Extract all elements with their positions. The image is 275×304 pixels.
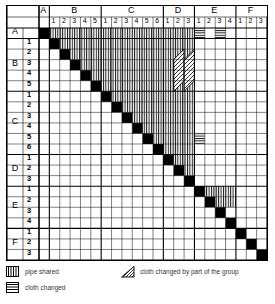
- col-sub-B2: 2: [59, 17, 69, 24]
- col-group-B: B: [66, 6, 82, 15]
- row-sub-E3: 3: [22, 207, 36, 215]
- col-sub-C5: 5: [142, 17, 152, 24]
- row-sub-C6: 6: [22, 143, 36, 151]
- col-sub-E2: 2: [204, 17, 214, 24]
- col-sub-C4: 4: [131, 17, 141, 24]
- row-sub-D3: 3: [22, 175, 36, 183]
- col-sub-B4: 4: [80, 17, 90, 24]
- col-sub-C2: 2: [111, 17, 121, 24]
- row-sub-C3: 3: [22, 112, 36, 120]
- row-sub-C5: 5: [22, 133, 36, 141]
- col-sub-B1: 1: [49, 17, 59, 24]
- legend-label-cloth-changed: cloth changed: [25, 284, 65, 292]
- vertical-hatch-swatch-icon: [6, 266, 19, 277]
- row-sub-F2: 2: [22, 238, 36, 246]
- row-sub-D2: 2: [22, 164, 36, 172]
- row-sub-C2: 2: [22, 101, 36, 109]
- col-sub-F1: 1: [235, 17, 245, 24]
- row-sub-C4: 4: [22, 122, 36, 130]
- col-sub-C6: 6: [152, 17, 162, 24]
- col-sub-C3: 3: [121, 17, 131, 24]
- col-sub-B3: 3: [69, 17, 79, 24]
- row-sub-B5: 5: [22, 80, 36, 88]
- row-sub-B1: 1: [22, 38, 36, 46]
- row-sub-B2: 2: [22, 48, 36, 56]
- row-sub-E4: 4: [22, 217, 36, 225]
- col-group-E: E: [206, 6, 222, 15]
- row-group-F: F: [8, 238, 22, 247]
- row-sub-B4: 4: [22, 69, 36, 77]
- legend-label-pipe-shared: pipe shared: [25, 268, 59, 276]
- col-sub-F3: 3: [256, 17, 266, 24]
- col-sub-E1: 1: [194, 17, 204, 24]
- matrix-figure: AB12345C123456D123E1234F123AB12345C12345…: [0, 0, 275, 304]
- col-sub-E3: 3: [214, 17, 224, 24]
- row-sub-F1: 1: [22, 228, 36, 236]
- row-group-D: D: [8, 164, 22, 173]
- col-group-A: A: [35, 6, 51, 15]
- row-group-A: A: [8, 27, 22, 36]
- row-sub-E2: 2: [22, 196, 36, 204]
- row-sub-B3: 3: [22, 59, 36, 67]
- col-sub-D1: 1: [163, 17, 173, 24]
- col-group-D: D: [170, 6, 186, 15]
- diagonal-hatch-triangle-icon: [121, 266, 135, 278]
- row-sub-D1: 1: [22, 154, 36, 162]
- row-group-E: E: [8, 201, 22, 210]
- col-group-F: F: [242, 6, 258, 15]
- col-sub-B5: 5: [90, 17, 100, 24]
- row-sub-F3: 3: [22, 249, 36, 257]
- row-group-C: C: [8, 117, 22, 126]
- col-sub-E4: 4: [225, 17, 235, 24]
- matrix-grid: [7, 6, 267, 260]
- legend-label-cloth-changed-part: cloth changed by part of the group: [140, 268, 239, 276]
- row-sub-C1: 1: [22, 91, 36, 99]
- legend: pipe shared cloth changed: [6, 266, 268, 302]
- horizontal-hatch-swatch-icon: [6, 282, 19, 293]
- row-sub-E1: 1: [22, 185, 36, 193]
- col-sub-C1: 1: [100, 17, 110, 24]
- row-group-B: B: [8, 59, 22, 68]
- col-group-C: C: [123, 6, 139, 15]
- col-sub-D3: 3: [183, 17, 193, 24]
- col-sub-F2: 2: [245, 17, 255, 24]
- col-sub-D2: 2: [173, 17, 183, 24]
- matrix-frame: [6, 5, 268, 261]
